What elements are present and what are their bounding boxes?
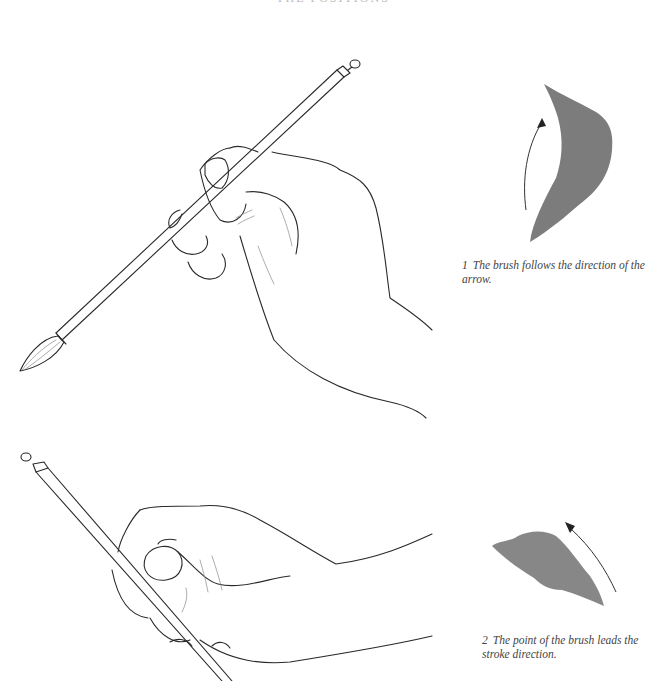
brush-stroke-figure-2: [480, 500, 620, 610]
direction-arrow-shaft: [525, 122, 542, 210]
ink-stroke-shape: [530, 84, 612, 242]
figure-1-number: 1: [462, 259, 468, 271]
figure-2-caption-text: The point of the brush leads the stroke …: [482, 634, 638, 660]
brush-stroke-figure-1: [500, 60, 630, 250]
hand-brush-illustration-2: [0, 440, 440, 681]
hand-brush-illustration-1: [0, 40, 440, 420]
figure-1-caption: 1The brush follows the direction of the …: [462, 258, 662, 286]
brush-stroke-1: [500, 60, 630, 250]
brush-stroke-2: [480, 500, 620, 610]
figure-2-caption: 2The point of the brush leads the stroke…: [482, 633, 664, 661]
running-head: THE POSITIONS: [0, 0, 666, 6]
hand-holding-brush-drawing-2: [0, 440, 440, 681]
hand-holding-brush-drawing: [0, 40, 440, 420]
figure-2-number: 2: [482, 634, 488, 646]
arrow-head-icon: [537, 118, 546, 128]
ink-stroke-shape-2: [492, 532, 604, 607]
figure-1-caption-text: The brush follows the direction of the a…: [462, 259, 645, 285]
